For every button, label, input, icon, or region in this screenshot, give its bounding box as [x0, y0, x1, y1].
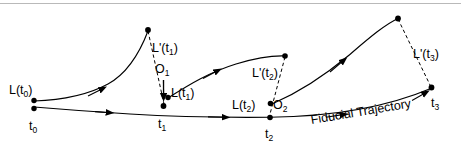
node-t0	[31, 106, 36, 111]
label-t2: t2	[265, 128, 273, 141]
node-t1	[161, 103, 167, 109]
node-peak-1	[145, 27, 151, 33]
fiducial-trajectory-figure: L(t0) t0 L'(t1) O1 L(t1) t1 L'(t2) L(t2)…	[0, 0, 461, 151]
perturbed-segment-0-1	[34, 31, 148, 101]
label-t0: t0	[29, 120, 37, 133]
label-O2: O2	[273, 99, 287, 112]
label-L-t2: L(t2)	[232, 99, 256, 112]
label-t3: t3	[431, 97, 439, 110]
trajectory-drawing	[0, 0, 461, 151]
perturbed-arrow-2-3	[330, 60, 344, 72]
label-Lprime-t1: L'(t1)	[152, 42, 178, 55]
node-t3	[429, 85, 435, 91]
label-Lprime-t2: L'(t2)	[252, 67, 278, 80]
label-O1: O1	[155, 63, 169, 76]
node-O1	[165, 95, 170, 100]
label-Lprime-t3: L'(t3)	[413, 48, 439, 61]
label-L-t1: L(t1)	[171, 87, 195, 100]
label-t1: t1	[158, 118, 166, 131]
fiducial-arrow-1	[95, 112, 110, 113]
perturbed-segment-2-3	[272, 19, 398, 105]
node-t2	[267, 115, 273, 121]
label-L-t0: L(t0)	[9, 84, 33, 97]
node-L-t0	[31, 98, 36, 103]
perturbed-arrow-1-2	[203, 71, 218, 79]
node-peak-3	[395, 16, 401, 22]
node-end-2	[282, 53, 288, 59]
